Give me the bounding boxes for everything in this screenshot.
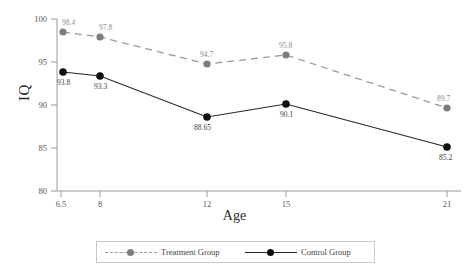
- data-label-treatment-12: 94.7: [200, 50, 213, 59]
- data-point-treatment-21: [443, 104, 450, 111]
- legend-item-treatment-group[interactable]: Treatment Group: [105, 242, 219, 262]
- legend-swatch-control-group: [245, 247, 297, 257]
- data-point-control-15: [282, 100, 290, 108]
- y-tick-label-100: 100: [13, 14, 47, 24]
- y-tick-label-85: 85: [13, 143, 47, 153]
- legend-circle-marker-icon: [267, 249, 274, 256]
- data-point-treatment-8: [96, 33, 103, 40]
- data-point-treatment-6-5: [59, 28, 66, 35]
- data-label-control-15: 90.1: [280, 110, 293, 119]
- data-point-control-8: [96, 72, 104, 80]
- legend: Treatment Group Control Group: [96, 241, 375, 263]
- data-point-control-21: [443, 143, 451, 151]
- legend-item-control-group[interactable]: Control Group: [245, 242, 351, 262]
- legend-label-control-group: Control Group: [301, 247, 351, 257]
- data-label-treatment-8: 97.8: [99, 23, 112, 32]
- line-chart-plot: [0, 0, 469, 277]
- y-axis-title: IQ: [16, 63, 33, 123]
- data-label-control-12: 88.65: [194, 123, 211, 132]
- data-label-control-8: 93.3: [94, 82, 107, 91]
- series-line-treatment-group: [63, 32, 447, 108]
- data-point-treatment-15: [282, 51, 289, 58]
- data-point-treatment-12: [203, 60, 210, 67]
- legend-swatch-treatment-group: [105, 247, 157, 257]
- data-label-treatment-21: 89.7: [437, 94, 450, 103]
- legend-circle-marker-icon: [127, 249, 134, 256]
- data-label-control-6-5: 93.8: [57, 78, 70, 87]
- data-label-treatment-6-5: 98.4: [62, 18, 75, 27]
- x-axis-title: Age: [0, 208, 469, 224]
- y-tick-label-80: 80: [13, 186, 47, 196]
- y-tick-label-95: 95: [13, 57, 47, 67]
- data-point-control-12: [203, 113, 211, 121]
- legend-label-treatment-group: Treatment Group: [161, 247, 219, 257]
- data-label-control-21: 85.2: [439, 153, 452, 162]
- y-tick-label-90: 90: [13, 100, 47, 110]
- chart-figure: IQ 100 95 90 85 80 6.5 8 12 15 21 Age 98…: [0, 0, 469, 277]
- series-line-control-group: [63, 72, 447, 147]
- data-label-treatment-15: 95.8: [279, 41, 292, 50]
- data-point-control-6-5: [59, 68, 67, 76]
